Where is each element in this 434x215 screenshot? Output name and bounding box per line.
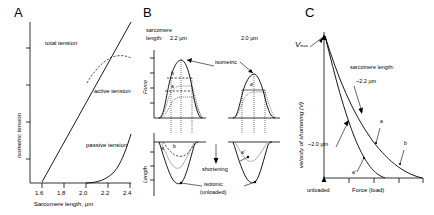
panel-c-vmax-label: Vmax <box>295 41 308 49</box>
figure-muscle-mechanics: A isometric tension total <box>0 0 434 215</box>
panel-a-xlabel: Sarcomere length, µm <box>34 201 93 207</box>
panel-a-label-active-tension: active tension <box>94 88 131 94</box>
panel-b-label-isotonic-unloaded: (unloaded) <box>200 190 226 196</box>
panel-a-xtick-2: 2.0 <box>79 190 87 196</box>
panel-c-legend-title: sarcomere length: <box>350 65 394 71</box>
panel-c-legend-upper: ~2.2 µm <box>356 79 376 85</box>
panel-b-length-marker-a-prime: a' <box>241 150 245 155</box>
panel-c-marker-b: b <box>404 141 407 146</box>
panel-a-xtick-4: 2.4 <box>123 190 131 196</box>
panel-a-label-passive-tension: passive tension <box>86 142 127 148</box>
panel-a: A isometric tension total <box>0 0 145 215</box>
passive-word: passive tension <box>86 142 127 148</box>
active-word: active tension <box>94 88 131 94</box>
panel-b-marker-a-prime: a' <box>250 82 254 87</box>
panel-c-origin-label: unloaded <box>307 188 330 194</box>
panel-b-label-isometric: isometric <box>215 60 237 66</box>
panel-b-length-marker-b: b <box>173 144 176 149</box>
panel-b-label-shortening: shortening <box>202 167 228 173</box>
panel-c-xlabel: Force (load) <box>352 187 384 193</box>
panel-c-marker-a: a <box>380 119 383 124</box>
panel-c: C velocity of shortening (V) <box>290 0 434 215</box>
panel-a-label-total-tension: total tension <box>45 40 77 46</box>
vmax-subscript: max <box>300 43 308 48</box>
panel-b-marker-a: a <box>171 84 174 89</box>
panel-a-xtick-3: 2.2 <box>101 190 109 196</box>
panel-a-plot <box>0 0 145 215</box>
panel-b: B sarcomere length: 2.2 µm 2.0 µm Force … <box>140 0 290 215</box>
panel-b-length-marker-a: a <box>161 146 164 151</box>
panel-c-legend-lower: ~2.0 µm <box>308 142 328 148</box>
panel-c-plot <box>290 0 434 215</box>
panel-a-xtick-1: 1.8 <box>57 190 65 196</box>
panel-c-marker-a-prime: a' <box>352 170 356 175</box>
panel-a-xtick-0: 1.6 <box>35 190 43 196</box>
panel-b-marker-b: b <box>171 71 174 76</box>
panel-b-label-isotonic: isotonic <box>204 182 223 188</box>
